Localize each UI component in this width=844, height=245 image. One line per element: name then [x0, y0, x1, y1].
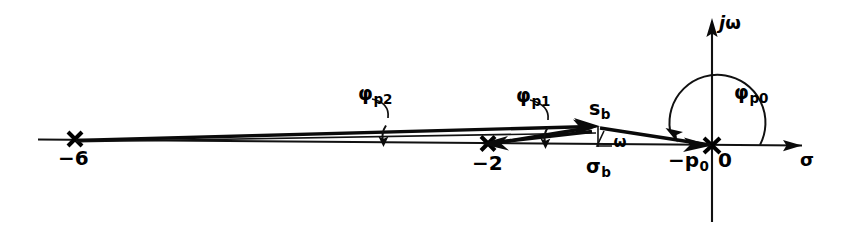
test-point-label-sb: sb	[589, 99, 610, 122]
jomega-axis-label-omega: ω	[725, 12, 741, 33]
angle-label-phi-p0-base: φ	[734, 81, 749, 103]
projection-label-sigma-b-base: σ	[586, 155, 601, 177]
pole-label-minus-p0: −p0	[668, 150, 709, 174]
pole-label-minus-6: −6	[58, 148, 89, 168]
angle-label-phi-p2-sub: p2	[373, 91, 393, 107]
test-point-label-sb-sub: b	[600, 106, 610, 122]
pole-label-minus-2: −2	[472, 153, 503, 173]
jomega-axis	[706, 18, 717, 222]
angle-label-phi-p1-base: φ	[516, 84, 531, 106]
projection-label-sigma-b-sub: b	[601, 164, 611, 180]
delta-omega-label-omega: ω	[613, 133, 627, 151]
figure-canvas	[0, 0, 844, 245]
origin-label: 0	[718, 150, 732, 170]
angle-label-phi-p2: φp2	[358, 84, 392, 107]
pole-label-minus-p0-sub: 0	[699, 158, 709, 174]
sigma-axis-label: σ	[800, 151, 814, 169]
s-plane-figure: −6 −2 −p0 0 sb σb ω φp2 φp1 φp0 jω σ	[0, 0, 844, 245]
projection-label-sigma-b: σb	[586, 157, 611, 180]
test-point-label-sb-base: s	[589, 97, 600, 119]
pole-label-minus-p0-base: −p	[668, 148, 699, 172]
angle-label-phi-p1: φp1	[516, 86, 550, 109]
angle-label-phi-p0-sub: p0	[749, 90, 769, 106]
angle-label-phi-p0: φp0	[734, 83, 768, 106]
angle-label-phi-p2-base: φ	[358, 82, 373, 104]
angle-label-phi-p1-sub: p1	[531, 93, 551, 109]
delta-omega-label: ω	[613, 134, 627, 150]
jomega-axis-label: jω	[719, 14, 741, 32]
